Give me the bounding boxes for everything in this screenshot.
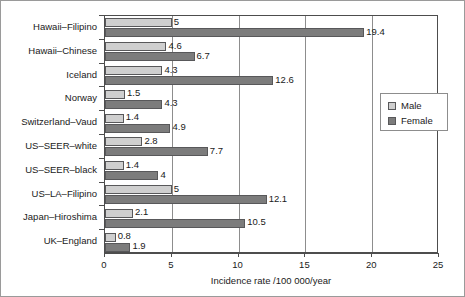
category-axis-tick	[99, 15, 104, 16]
bar-value-label: 0.8	[118, 231, 131, 241]
bar-male	[105, 233, 116, 242]
category-label: Norway	[65, 94, 97, 104]
x-axis-tick	[171, 253, 172, 257]
category-axis-tick	[99, 63, 104, 64]
category-axis-tick	[99, 229, 104, 230]
category-axis-tick	[99, 182, 104, 183]
category-label: US–SEER–white	[25, 141, 97, 151]
x-axis-tick-label: 0	[101, 259, 106, 270]
x-axis-tick-label: 15	[299, 259, 310, 270]
x-axis-tick	[438, 253, 439, 257]
bar-female	[105, 147, 208, 156]
category-axis-tick	[99, 86, 104, 87]
legend-label-male: Male	[401, 100, 422, 111]
bar-female	[105, 76, 273, 85]
bar-value-label: 5	[174, 184, 179, 194]
legend-swatch-male-icon	[388, 102, 396, 110]
bar-value-label: 2.1	[135, 208, 148, 218]
category-axis-tick	[99, 158, 104, 159]
bar-value-label: 1.4	[126, 160, 139, 170]
category-axis-tick	[99, 110, 104, 111]
bar-value-label: 10.5	[247, 218, 266, 228]
bar-male	[105, 18, 172, 27]
bar-female	[105, 171, 158, 180]
x-axis-tick-label: 5	[168, 259, 173, 270]
bar-female	[105, 28, 364, 37]
x-axis-tick	[104, 253, 105, 257]
bar-male	[105, 209, 133, 218]
legend-item-male: Male	[388, 98, 447, 113]
bar-male	[105, 137, 142, 146]
bar-value-label: 4.6	[168, 41, 181, 51]
category-label: Hawaii–Filipino	[33, 22, 97, 32]
bar-value-label: 1.9	[132, 241, 145, 251]
category-label: Japan–Hiroshima	[23, 213, 97, 223]
chart-figure: Hawaii–FilipinoHawaii–ChineseIcelandNorw…	[0, 0, 465, 297]
chart-legend: Male Female	[380, 93, 448, 131]
gridline	[305, 16, 306, 252]
legend-label-female: Female	[401, 115, 433, 126]
category-axis-tick	[99, 134, 104, 135]
bar-value-label: 4	[160, 170, 165, 180]
bar-female	[105, 124, 170, 133]
bar-male	[105, 161, 124, 170]
bar-male	[105, 42, 166, 51]
bar-value-label: 5	[174, 17, 179, 27]
x-axis-tick-label: 25	[433, 259, 444, 270]
bar-value-label: 7.7	[210, 146, 223, 156]
category-axis-labels: Hawaii–FilipinoHawaii–ChineseIcelandNorw…	[1, 1, 97, 297]
gridline	[239, 16, 240, 252]
bar-value-label: 6.7	[197, 51, 210, 61]
x-axis-tick-label: 20	[366, 259, 377, 270]
bar-male	[105, 114, 124, 123]
x-axis-line	[104, 253, 439, 254]
bar-male	[105, 66, 162, 75]
legend-item-female: Female	[388, 113, 447, 128]
bar-value-label: 4.3	[164, 65, 177, 75]
category-label: Hawaii–Chinese	[28, 46, 97, 56]
bar-female	[105, 195, 267, 204]
x-axis-tick	[371, 253, 372, 257]
bar-female	[105, 243, 130, 252]
bar-female	[105, 100, 162, 109]
category-label: Iceland	[66, 70, 97, 80]
bar-value-label: 4.9	[172, 122, 185, 132]
x-axis-tick	[304, 253, 305, 257]
bar-value-label: 4.3	[164, 99, 177, 109]
bar-value-label: 1.5	[127, 89, 140, 99]
category-label: UK–England	[44, 236, 97, 246]
x-axis-tick	[238, 253, 239, 257]
bar-male	[105, 90, 125, 99]
category-axis-tick	[99, 39, 104, 40]
gridline	[372, 16, 373, 252]
bar-value-label: 19.4	[366, 27, 385, 37]
x-axis-tick-label: 10	[232, 259, 243, 270]
legend-swatch-female-icon	[388, 117, 396, 125]
bar-value-label: 12.1	[269, 194, 288, 204]
bar-male	[105, 185, 172, 194]
bar-female	[105, 219, 245, 228]
bar-value-label: 12.6	[275, 75, 294, 85]
x-axis-title: Incidence rate /100 000/year	[104, 275, 438, 286]
category-label: US–LA–Filipino	[32, 189, 97, 199]
plot-area	[104, 15, 438, 253]
category-axis-tick	[99, 205, 104, 206]
bar-female	[105, 52, 195, 61]
bar-value-label: 2.8	[144, 136, 157, 146]
category-label: Switzerland–Vaud	[21, 117, 97, 127]
bar-value-label: 1.4	[126, 112, 139, 122]
category-label: US–SEER–black	[25, 165, 97, 175]
